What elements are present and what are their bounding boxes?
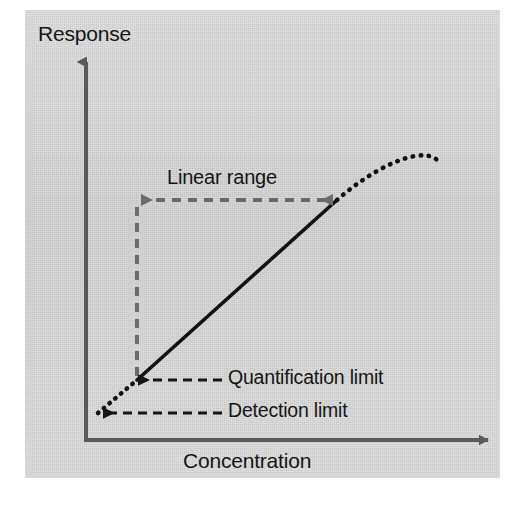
limit-callouts bbox=[104, 380, 222, 413]
calibration-curve-chart bbox=[0, 0, 525, 507]
linear-range-label: Linear range bbox=[167, 166, 277, 189]
detection-limit-label: Detection limit bbox=[228, 399, 347, 422]
y-axis-title: Response bbox=[38, 22, 131, 46]
x-axis-title: Concentration bbox=[183, 449, 311, 473]
curve-saturation-dotted bbox=[337, 155, 437, 200]
quantification-limit-label: Quantification limit bbox=[228, 366, 383, 389]
curve-linear-range-solid bbox=[137, 200, 337, 380]
curve-below-detection-dotted bbox=[98, 380, 137, 413]
figure-root: Response Concentration Linear range Quan… bbox=[0, 0, 525, 507]
